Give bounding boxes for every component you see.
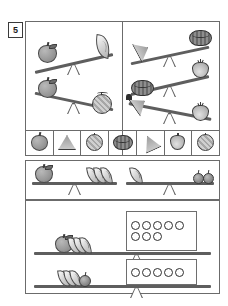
- melon-icon: [86, 134, 103, 151]
- squash-stem-icon: [205, 133, 207, 136]
- legend-cell-cabbage[interactable]: [108, 130, 136, 155]
- token-circle: [164, 268, 173, 277]
- melon-leaf-icon: [97, 92, 108, 96]
- weight-counting-panel: [25, 200, 220, 294]
- token-circle: [175, 221, 184, 230]
- legend-cell-apple[interactable]: [26, 130, 53, 155]
- token-box-eight[interactable]: [126, 211, 197, 251]
- onion-sprout-icon: [201, 60, 204, 63]
- worksheet-page: 5: [0, 0, 228, 306]
- onion-icon: [170, 135, 185, 150]
- cherry-stem-icon: [84, 272, 86, 277]
- apple-icon: [35, 166, 53, 183]
- token-circle: [175, 268, 184, 277]
- token-circle: [131, 221, 140, 230]
- cherry-stem-icon: [208, 170, 210, 174]
- cabbage-icon: [189, 30, 212, 46]
- legend-cell-carrot[interactable]: [136, 130, 164, 155]
- token-circle: [142, 232, 151, 241]
- apple-stem-icon: [38, 132, 40, 136]
- token-circle: [153, 221, 162, 230]
- cherry-icon: [79, 275, 91, 287]
- legend-cell-squash[interactable]: [191, 130, 219, 155]
- legend-cell-onion[interactable]: [164, 130, 192, 155]
- token-circle: [142, 221, 151, 230]
- melon-stem-icon: [94, 133, 96, 136]
- apple-leaf-icon: [45, 165, 52, 170]
- cherry-icon: [203, 173, 214, 184]
- banana-icon: [93, 34, 111, 59]
- fulcrum-icon: [130, 287, 143, 298]
- fulcrum-icon: [67, 103, 80, 114]
- squash-icon: [197, 134, 214, 151]
- token-circle: [164, 221, 173, 230]
- token-box-five[interactable]: [126, 259, 197, 285]
- cherry-stem-icon: [198, 170, 200, 174]
- legend-cell-banana[interactable]: [53, 130, 81, 155]
- legend-strip: [26, 130, 219, 155]
- apple-icon: [38, 45, 57, 63]
- onion-sprout-icon: [197, 103, 200, 106]
- fulcrum-icon: [68, 184, 81, 195]
- balance-beam: [34, 285, 211, 288]
- cabbage-icon: [131, 80, 154, 96]
- token-circle: [142, 268, 151, 277]
- cabbage-icon: [113, 135, 133, 150]
- apple-leaf-icon: [49, 79, 57, 84]
- legend-cell-melon[interactable]: [80, 130, 108, 155]
- token-circle: [131, 232, 140, 241]
- carrot-icon: [139, 132, 161, 154]
- onion-sprout-icon: [177, 133, 178, 137]
- apple-icon: [38, 80, 57, 98]
- fulcrum-icon: [163, 113, 176, 124]
- onion-sprout-icon: [201, 103, 204, 106]
- banana-icon: [58, 135, 76, 150]
- exercise-number-badge: 5: [8, 22, 23, 38]
- token-circle: [153, 268, 162, 277]
- top-comparison-panel: [25, 21, 220, 156]
- fulcrum-icon: [163, 184, 176, 195]
- onion-sprout-icon: [197, 60, 200, 63]
- apple-icon: [31, 135, 48, 151]
- apple-leaf-icon: [49, 44, 57, 49]
- carrot-greens-icon: [126, 94, 132, 100]
- token-circle: [131, 268, 140, 277]
- equivalence-panel: [25, 160, 220, 200]
- melon-icon: [92, 94, 112, 114]
- token-circle: [153, 232, 162, 241]
